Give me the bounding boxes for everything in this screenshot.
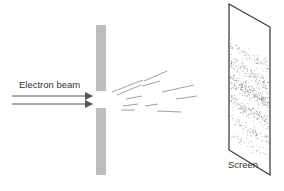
diffraction-diagram: Electron beam Screen <box>0 0 284 191</box>
electron-beam-label: Electron beam <box>19 79 80 90</box>
barrier-lower <box>96 108 106 175</box>
screen-label: Screen <box>228 159 258 170</box>
screen <box>229 4 270 175</box>
slit-barrier <box>96 25 106 175</box>
electron-beam-arrows <box>12 96 92 104</box>
diffracted-rays <box>112 71 197 112</box>
interference-pattern <box>230 38 270 160</box>
barrier-upper <box>96 25 106 91</box>
